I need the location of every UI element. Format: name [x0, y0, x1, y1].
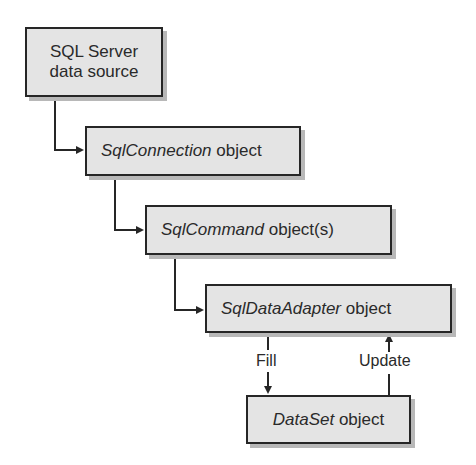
node-sql-server-line1: SQL Server [50, 42, 139, 62]
edge-connection-command [115, 180, 142, 230]
node-sqlconnection: SqlConnection object [85, 126, 301, 176]
node-sqlconnection-class: SqlConnection [101, 141, 212, 161]
node-sql-server: SQL Server data source [25, 27, 163, 97]
node-sqlcommand-suffix: object(s) [264, 220, 334, 240]
node-sql-server-line2: data source [50, 62, 139, 82]
node-dataset-class: DataSet [273, 410, 334, 430]
edge-sqlserver-connection [55, 101, 82, 150]
node-dataset: DataSet object [246, 395, 411, 444]
node-sqldataadapter-class: SqlDataAdapter [221, 299, 341, 319]
node-dataset-suffix: object [334, 410, 384, 430]
node-sqldataadapter-suffix: object [341, 299, 391, 319]
edge-label-update: Update [359, 352, 411, 370]
node-sqlcommand-class: SqlCommand [161, 220, 264, 240]
node-sqldataadapter: SqlDataAdapter object [205, 284, 452, 333]
node-sqlconnection-suffix: object [212, 141, 262, 161]
edge-command-adapter [175, 259, 202, 310]
edge-label-fill: Fill [256, 352, 276, 370]
node-sqlcommand: SqlCommand object(s) [145, 205, 392, 255]
